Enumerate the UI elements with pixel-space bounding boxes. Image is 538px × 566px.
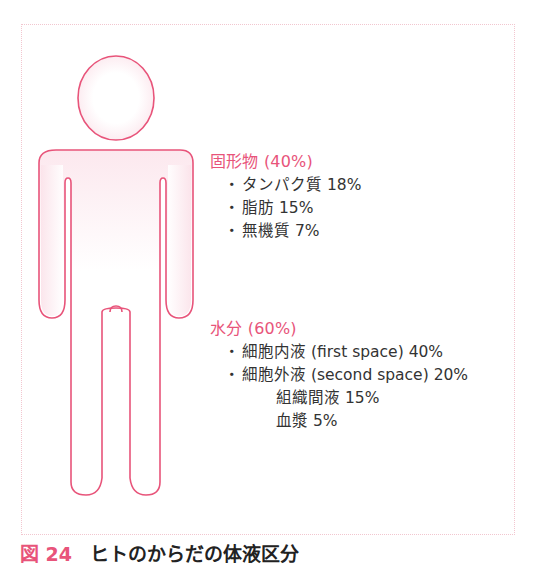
- water-item: ・細胞外液 (second space) 20%: [222, 362, 468, 384]
- water-title: 水分 (60%): [210, 315, 297, 339]
- water-item: ・細胞内液 (first space) 40%: [222, 339, 443, 361]
- solids-item: ・タンパク質 18%: [222, 172, 361, 194]
- figure-caption: 図 24ヒトのからだの体液区分: [20, 539, 299, 566]
- bullet: ・: [222, 195, 242, 217]
- item-label: 脂肪 15%: [242, 199, 313, 217]
- bullet: ・: [222, 172, 242, 194]
- figure-title: ヒトのからだの体液区分: [90, 543, 299, 565]
- item-label: タンパク質 18%: [242, 176, 361, 194]
- figure-number: 図 24: [20, 543, 72, 565]
- item-label: 細胞内液 (first space) 40%: [242, 343, 443, 361]
- item-label: 細胞外液 (second space) 20%: [242, 366, 468, 384]
- solids-item: ・無機質 7%: [222, 218, 320, 240]
- bullet: ・: [222, 218, 242, 240]
- item-label: 無機質 7%: [242, 222, 320, 240]
- solids-item: ・脂肪 15%: [222, 195, 313, 217]
- solids-title: 固形物 (40%): [210, 148, 313, 172]
- water-sub-item: 血漿 5%: [276, 408, 338, 430]
- bullet: ・: [222, 339, 242, 361]
- bullet: ・: [222, 362, 242, 384]
- head-shape: [78, 56, 154, 140]
- water-sub-item: 組織間液 15%: [276, 385, 379, 407]
